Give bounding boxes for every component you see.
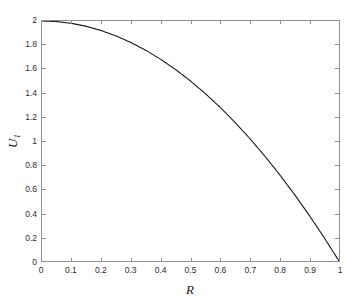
x-tick-mark — [280, 258, 281, 262]
x-tick-mark — [191, 258, 192, 262]
x-tick-label: 0.1 — [65, 266, 77, 275]
x-tick-mark-top — [101, 20, 102, 24]
x-tick-label: 0.8 — [274, 266, 286, 275]
curve-svg — [42, 21, 339, 261]
y-tick-label: 0.8 — [14, 161, 37, 170]
y-tick-mark-right — [335, 238, 339, 239]
y-tick-label: 1.6 — [14, 64, 37, 73]
y-tick-label: 0 — [14, 258, 37, 267]
y-tick-label: 0.4 — [14, 209, 37, 218]
x-tick-mark — [71, 258, 72, 262]
x-tick-label: 0.7 — [244, 266, 256, 275]
x-tick-mark — [101, 258, 102, 262]
x-tick-mark-top — [280, 20, 281, 24]
y-tick-mark-right — [335, 189, 339, 190]
y-tick-mark — [42, 68, 46, 69]
y-tick-mark — [42, 141, 46, 142]
x-tick-label: 0.9 — [304, 266, 316, 275]
x-tick-label: 1 — [338, 266, 343, 275]
y-tick-mark — [42, 189, 46, 190]
y-tick-label: 1.8 — [14, 40, 37, 49]
y-tick-label: 1.2 — [14, 113, 37, 122]
y-tick-label: 1.4 — [14, 88, 37, 97]
y-tick-mark-right — [335, 141, 339, 142]
y-tick-label: 2 — [14, 16, 37, 25]
x-tick-mark-top — [71, 20, 72, 24]
x-tick-mark — [220, 258, 221, 262]
x-tick-mark-top — [310, 20, 311, 24]
y-tick-mark-right — [335, 117, 339, 118]
x-tick-label: 0.4 — [155, 266, 167, 275]
y-tick-mark-right — [335, 68, 339, 69]
x-tick-label: 0.5 — [185, 266, 197, 275]
y-tick-mark — [42, 238, 46, 239]
x-tick-mark-top — [131, 20, 132, 24]
y-tick-mark-right — [335, 44, 339, 45]
x-tick-mark-top — [191, 20, 192, 24]
plot-area — [41, 20, 340, 262]
y-tick-mark-right — [335, 214, 339, 215]
y-axis-label-text: U — [5, 139, 20, 148]
x-tick-mark — [131, 258, 132, 262]
figure-canvas: 00.10.20.30.40.50.60.70.80.91 00.20.40.6… — [0, 0, 358, 304]
y-tick-mark — [42, 117, 46, 118]
y-tick-mark — [42, 165, 46, 166]
x-tick-mark — [310, 258, 311, 262]
x-tick-label: 0.2 — [95, 266, 107, 275]
x-axis-label: R — [186, 283, 194, 296]
y-tick-mark — [42, 44, 46, 45]
y-tick-mark — [42, 214, 46, 215]
y-tick-mark — [42, 93, 46, 94]
x-tick-mark-top — [250, 20, 251, 24]
x-tick-mark — [250, 258, 251, 262]
x-tick-mark-top — [220, 20, 221, 24]
x-tick-label: 0.6 — [214, 266, 226, 275]
x-tick-mark-top — [161, 20, 162, 24]
y-tick-label: 0.2 — [14, 234, 37, 243]
y-tick-mark-right — [335, 93, 339, 94]
y-tick-mark-right — [335, 165, 339, 166]
x-tick-label: 0 — [39, 266, 44, 275]
y-tick-label: 0.6 — [14, 185, 37, 194]
y-axis-label-subscript: 1 — [12, 134, 22, 139]
x-tick-label: 0.3 — [125, 266, 137, 275]
y-axis-label: U1 — [6, 134, 23, 148]
data-series-u1 — [42, 21, 339, 261]
x-tick-mark — [161, 258, 162, 262]
